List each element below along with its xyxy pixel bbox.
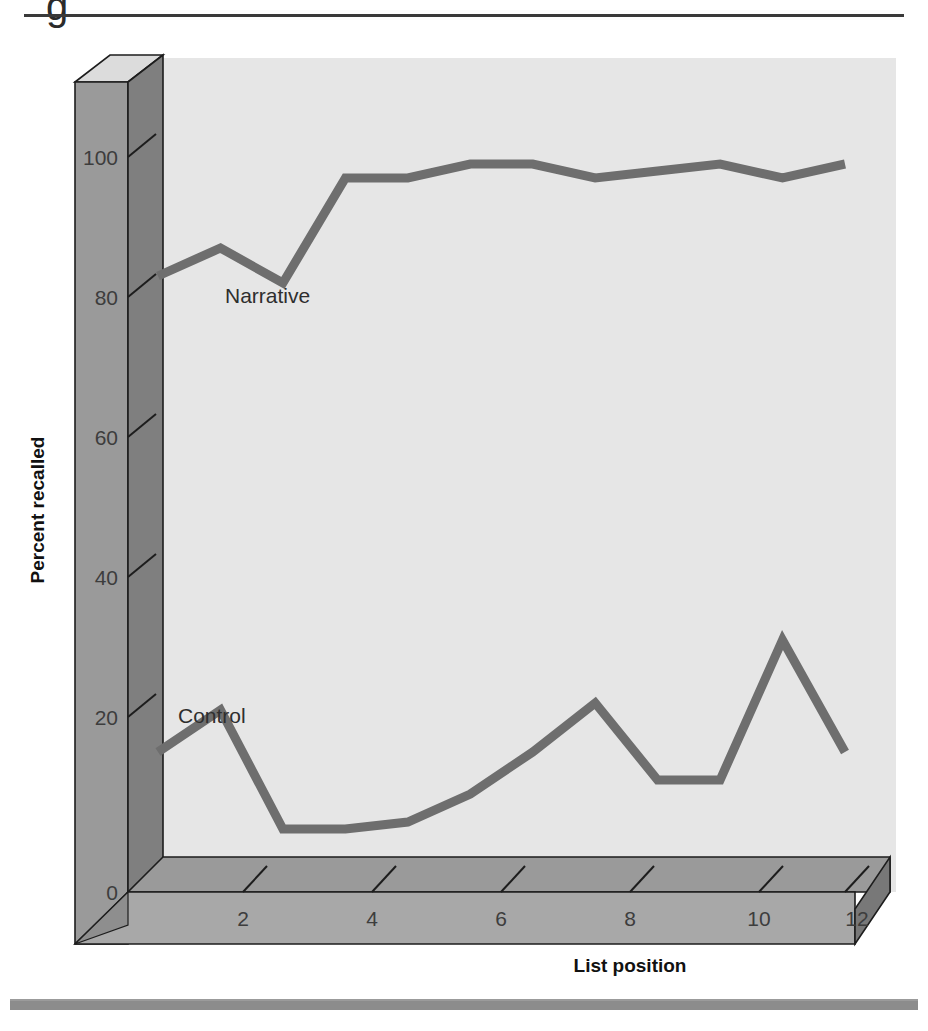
x-tick-label-6: 6: [495, 907, 507, 930]
x-tick-label-4: 4: [366, 907, 378, 930]
y-axis-title: Percent recalled: [27, 437, 48, 584]
y-tick-label-100: 100: [83, 146, 118, 169]
x-tick-label-8: 8: [624, 907, 636, 930]
x-tick-label-2: 2: [237, 907, 249, 930]
footer-rule-highlight: [10, 999, 918, 1001]
plot-background: [160, 58, 896, 892]
y-axis-block-side: [128, 55, 163, 925]
line-chart: 100 80 60 40 20 0 2 4 6 8 10 12: [0, 0, 928, 995]
y-axis-block-face: [75, 82, 128, 944]
y-tick-label-20: 20: [95, 706, 118, 729]
series-annotation-narrative: Narrative: [225, 284, 310, 307]
x-tick-label-10: 10: [747, 907, 770, 930]
x-axis-block-face: [75, 892, 855, 944]
y-tick-label-80: 80: [95, 286, 118, 309]
y-tick-label-60: 60: [95, 426, 118, 449]
y-tick-label-40: 40: [95, 566, 118, 589]
x-axis-title: List position: [574, 955, 687, 976]
y-tick-label-0: 0: [106, 881, 118, 904]
chart-figure: 100 80 60 40 20 0 2 4 6 8 10 12: [0, 0, 928, 995]
series-annotation-control: Control: [178, 704, 246, 727]
x-tick-label-12: 12: [845, 907, 868, 930]
